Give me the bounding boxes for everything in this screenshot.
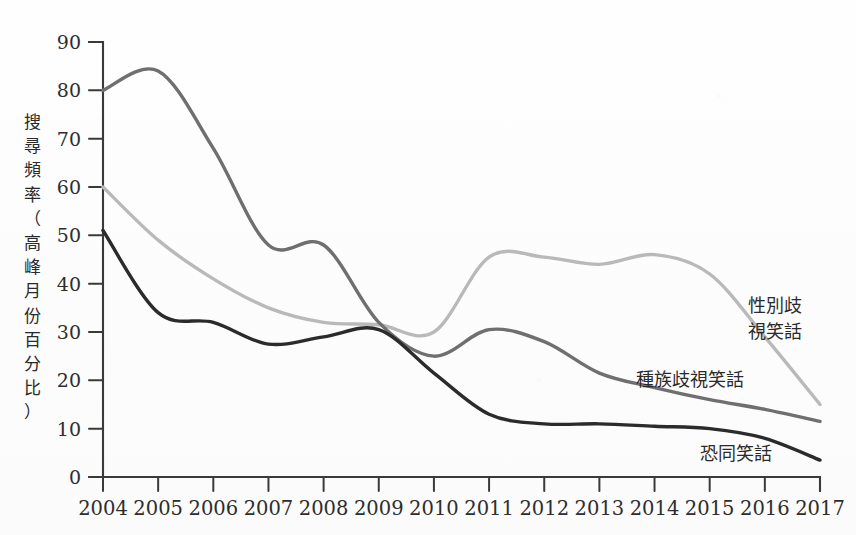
y-tick-label: 30	[57, 321, 81, 343]
y-tick-label: 50	[57, 224, 81, 246]
y-axis-title-char: 尋	[24, 136, 41, 156]
y-tick-0: 0	[69, 466, 103, 488]
x-tick-2013: 2013	[575, 477, 625, 520]
series-label-0: 性別歧視笑話	[748, 295, 802, 342]
y-axis-title-char: 百	[24, 330, 41, 350]
x-tick-2014: 2014	[630, 477, 680, 520]
y-axis-title-char: 份	[24, 306, 41, 326]
chart-canvas: 0102030405060708090 20042005200620072008…	[0, 0, 856, 535]
y-axis-line	[89, 42, 103, 477]
x-tick-2010: 2010	[409, 477, 459, 520]
y-tick-60: 60	[57, 176, 103, 198]
y-axis-ticks: 0102030405060708090	[57, 31, 103, 488]
x-tick-2006: 2006	[188, 477, 238, 520]
y-axis-title-char: ）	[24, 402, 41, 422]
x-tick-2009: 2009	[354, 477, 404, 520]
y-tick-label: 90	[57, 31, 81, 53]
x-tick-label: 2017	[795, 497, 845, 520]
x-tick-2011: 2011	[464, 477, 514, 520]
axes	[89, 42, 820, 491]
y-tick-label: 0	[69, 466, 81, 488]
y-axis-title-char: 峰	[24, 257, 41, 277]
y-axis-title-char: 分	[24, 354, 41, 374]
x-tick-2017: 2017	[795, 477, 845, 520]
x-tick-label: 2008	[299, 497, 349, 520]
y-tick-label: 40	[57, 273, 81, 295]
y-tick-50: 50	[57, 224, 103, 246]
series-labels: 性別歧視笑話種族歧視笑話恐同笑話	[636, 295, 802, 464]
y-tick-30: 30	[57, 321, 103, 343]
x-tick-2005: 2005	[133, 477, 183, 520]
y-tick-label: 80	[57, 79, 81, 101]
y-axis-title-char: 搜	[24, 112, 41, 132]
x-tick-2015: 2015	[685, 477, 735, 520]
x-tick-label: 2013	[575, 497, 625, 520]
y-tick-label: 70	[57, 128, 81, 150]
x-tick-label: 2014	[630, 497, 680, 520]
x-tick-label: 2010	[409, 497, 459, 520]
series-group	[103, 69, 820, 460]
x-tick-2004: 2004	[78, 477, 128, 520]
x-tick-label: 2015	[685, 497, 735, 520]
x-tick-label: 2007	[244, 497, 294, 520]
series-label-1: 種族歧視笑話	[636, 369, 744, 390]
y-tick-label: 60	[57, 176, 81, 198]
y-tick-label: 20	[57, 369, 81, 391]
y-axis-title-char: 率	[24, 185, 41, 205]
x-tick-label: 2004	[78, 497, 128, 520]
x-tick-label: 2009	[354, 497, 404, 520]
series-label-line: 恐同笑話	[700, 443, 772, 464]
series-label-2: 恐同笑話	[700, 443, 772, 464]
y-tick-20: 20	[57, 369, 103, 391]
x-tick-label: 2006	[188, 497, 238, 520]
x-axis-line	[103, 477, 820, 491]
x-tick-label: 2005	[133, 497, 183, 520]
y-tick-90: 90	[57, 31, 103, 53]
y-axis-title-char: 比	[24, 378, 41, 398]
y-tick-10: 10	[57, 418, 103, 440]
x-tick-label: 2012	[519, 497, 569, 520]
x-tick-label: 2011	[464, 497, 514, 520]
x-tick-2012: 2012	[519, 477, 569, 520]
y-tick-80: 80	[57, 79, 103, 101]
x-tick-2016: 2016	[740, 477, 790, 520]
y-tick-label: 10	[57, 418, 81, 440]
series-label-line: 性別歧	[748, 295, 802, 316]
x-tick-2007: 2007	[244, 477, 294, 520]
y-tick-40: 40	[57, 273, 103, 295]
series-label-line: 視笑話	[748, 321, 802, 342]
x-axis-ticks: 2004200520062007200820092010201120122013…	[78, 477, 845, 520]
y-axis-title-char: 月	[24, 281, 41, 301]
y-axis-title: 搜尋頻率（高峰月份百分比）	[24, 112, 41, 422]
series-label-line: 種族歧視笑話	[636, 369, 744, 390]
y-axis-title-char: （	[24, 209, 41, 229]
line-chart: 0102030405060708090 20042005200620072008…	[0, 0, 856, 535]
y-axis-title-char: 高	[24, 233, 41, 253]
y-tick-70: 70	[57, 128, 103, 150]
x-tick-label: 2016	[740, 497, 790, 520]
x-tick-2008: 2008	[299, 477, 349, 520]
y-axis-title-char: 頻	[24, 160, 41, 180]
